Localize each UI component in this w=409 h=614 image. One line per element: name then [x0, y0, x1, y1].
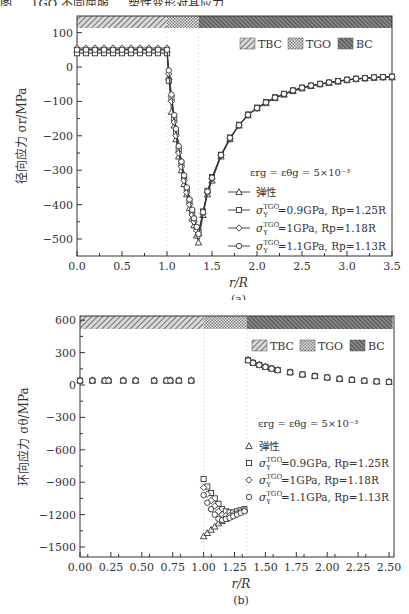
legend-series-label: σTGOY=1GPa, Rp=1.18R — [256, 221, 377, 237]
circle-marker — [119, 47, 124, 52]
circle-marker — [176, 378, 181, 383]
diamond-marker — [236, 225, 242, 231]
legend-label-tbc: TBC — [270, 340, 294, 353]
circle-marker — [245, 112, 250, 117]
circle-marker — [106, 378, 111, 383]
y-tick-label: −1500 — [39, 541, 76, 554]
circle-marker — [173, 126, 178, 131]
legend-series-label: σTGOY=1.1GPa, Rp=1.13R — [256, 239, 387, 255]
legend-label-tbc: TBC — [258, 38, 282, 51]
x-tick-label: 3.5 — [383, 260, 401, 273]
circle-marker — [218, 152, 223, 157]
circle-marker — [263, 364, 268, 369]
circle-marker — [169, 92, 174, 97]
x-tick-label: 2.00 — [315, 561, 340, 574]
x-tick-label: 2.5 — [293, 260, 311, 273]
circle-marker — [281, 91, 286, 96]
circle-marker — [83, 47, 88, 52]
circle-marker — [77, 378, 82, 383]
y-tick-label: −100 — [43, 95, 73, 108]
circle-marker — [155, 47, 160, 52]
circle-marker — [380, 74, 385, 79]
circle-marker — [194, 224, 199, 229]
legend-series-label: 弹性 — [256, 186, 276, 198]
figure-caption: (a) — [231, 293, 246, 300]
circle-marker — [317, 81, 322, 86]
legend-series-label: 弹性 — [259, 440, 279, 452]
region-band-bc — [199, 16, 393, 28]
circle-marker — [257, 362, 262, 367]
circle-marker — [168, 378, 173, 383]
y-tick-label: −500 — [43, 233, 73, 246]
circle-marker — [181, 173, 186, 178]
y-tick-label: 0 — [66, 61, 73, 74]
circle-marker — [128, 47, 133, 52]
circle-marker — [101, 47, 106, 52]
region-band-tbc — [80, 316, 204, 329]
legend-swatch-bc — [350, 340, 365, 351]
x-axis-label: r/R — [232, 577, 251, 591]
region-band-bc — [247, 316, 393, 329]
x-tick-label: 1.00 — [191, 561, 216, 574]
circle-marker — [290, 88, 295, 93]
circle-marker — [299, 85, 304, 90]
region-band-tbc — [77, 16, 167, 28]
circle-marker — [335, 78, 340, 83]
y-tick-label: 100 — [52, 27, 73, 40]
circle-marker — [353, 76, 358, 81]
circle-marker — [171, 112, 176, 117]
circle-marker — [151, 378, 156, 383]
legend-label-bc: BC — [356, 38, 373, 51]
x-tick-label: 0.5 — [113, 260, 131, 273]
circle-marker — [389, 74, 394, 79]
strain-annotation: εrg = εθg = 5×10⁻³ — [258, 418, 358, 429]
circle-marker — [246, 494, 251, 499]
circle-marker — [208, 506, 213, 511]
figure-caption: (b) — [233, 594, 249, 607]
circle-marker — [146, 47, 151, 52]
circle-marker — [201, 492, 206, 497]
circle-marker — [184, 185, 189, 190]
y-tick-label: −900 — [46, 476, 76, 489]
circle-marker — [176, 143, 181, 148]
x-tick-label: 0.50 — [130, 561, 155, 574]
y-tick-label: −300 — [46, 411, 76, 424]
x-tick-label: 2.50 — [377, 561, 402, 574]
legend-series-label: σTGOY=1.1GPa, Rp=1.13R — [259, 490, 390, 506]
y-tick-label: 0 — [69, 379, 76, 392]
circle-marker — [349, 377, 354, 382]
legend-series-label: σTGOY=1GPa, Rp=1.18R — [259, 473, 380, 489]
y-tick-label: −300 — [43, 164, 73, 177]
circle-marker — [164, 47, 169, 52]
circle-marker — [196, 231, 201, 236]
circle-marker — [371, 75, 376, 80]
circle-marker — [386, 379, 391, 384]
circle-marker — [308, 83, 313, 88]
triangle-marker — [195, 239, 201, 245]
circle-marker — [121, 378, 126, 383]
circle-marker — [236, 122, 241, 127]
x-tick-label: 0.75 — [160, 561, 185, 574]
circle-marker — [227, 135, 232, 140]
legend-swatch-tgo — [288, 38, 303, 49]
circle-marker — [209, 175, 214, 180]
x-tick-label: 0.0 — [68, 260, 86, 273]
y-tick-label: 600 — [55, 314, 76, 327]
y-tick-label: −200 — [43, 130, 73, 143]
circle-marker — [324, 375, 329, 380]
circle-marker — [275, 367, 280, 372]
square-marker — [246, 460, 251, 465]
circle-marker — [205, 500, 210, 505]
circle-marker — [263, 100, 268, 105]
x-tick-label: 1.5 — [203, 260, 221, 273]
legend-label-tgo: TGO — [318, 340, 343, 353]
circle-marker — [137, 47, 142, 52]
x-tick-label: 2.25 — [346, 561, 371, 574]
circle-marker — [254, 105, 259, 110]
circle-marker — [312, 373, 317, 378]
circle-marker — [133, 378, 138, 383]
circle-marker — [269, 366, 274, 371]
y-tick-label: 300 — [55, 347, 76, 360]
circle-marker — [326, 80, 331, 85]
x-tick-label: 1.75 — [284, 561, 309, 574]
